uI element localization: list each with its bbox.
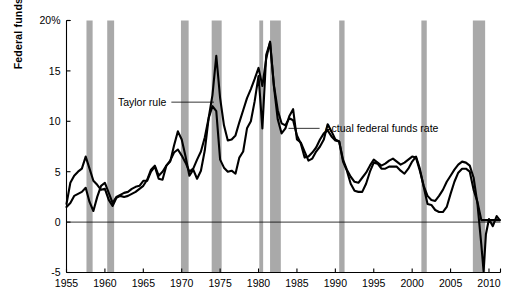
recession-band <box>473 21 485 273</box>
y-tick-label: 20% <box>39 14 60 26</box>
y-tick-label: 15 <box>49 65 61 77</box>
x-tick-label: 1970 <box>170 277 194 289</box>
recession-band <box>107 21 114 273</box>
axis-frame <box>67 21 501 273</box>
x-tick-label: 1980 <box>247 277 271 289</box>
x-tick-label: 2000 <box>400 277 424 289</box>
recession-band <box>421 21 426 273</box>
x-tick-label: 1995 <box>362 277 386 289</box>
x-tick-label: 2005 <box>439 277 463 289</box>
chart-plot-area: 20%151050-5 1955196019651970197519801985… <box>0 0 515 305</box>
x-tick-label: 1975 <box>208 277 232 289</box>
y-ticks: 20%151050-5 <box>39 14 70 278</box>
annotation-label: Actual federal funds rate <box>325 122 439 134</box>
y-tick-label: 10 <box>49 115 61 127</box>
y-tick-label: 0 <box>55 216 61 228</box>
x-tick-label: 1960 <box>93 277 117 289</box>
data-series <box>67 42 500 272</box>
chart-figure: Federal funds rate 20%151050-5 195519601… <box>0 0 515 305</box>
series-line <box>67 42 500 272</box>
annotation-label: Taylor rule <box>118 96 167 108</box>
recession-bands <box>86 21 485 273</box>
y-tick-label: 5 <box>55 166 61 178</box>
x-tick-label: 1965 <box>132 277 156 289</box>
recession-band <box>181 21 189 273</box>
x-tick-label: 1990 <box>324 277 348 289</box>
recession-band <box>259 21 263 273</box>
x-tick-label: 1955 <box>55 277 79 289</box>
x-tick-label: 2010 <box>477 277 501 289</box>
x-tick-label: 1985 <box>285 277 309 289</box>
recession-band <box>86 21 92 273</box>
